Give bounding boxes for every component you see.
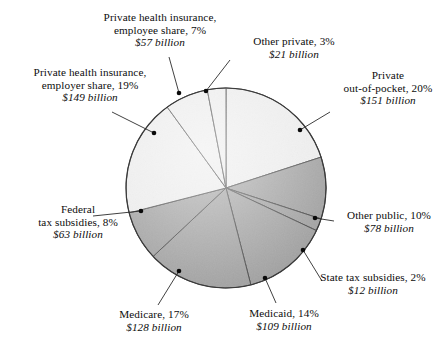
leader-private-oop [300,112,330,130]
dot-private-oop [298,128,303,133]
label-amount: $12 billion [300,284,446,297]
label-line-1: State tax subsidies, 2% [300,271,446,284]
dot-other-private [204,89,209,94]
label-medicaid: Medicaid, 14% $109 billion [226,307,342,332]
label-amount: $109 billion [226,320,342,333]
label-medicare: Medicare, 17% $128 billion [96,308,212,333]
dot-medicaid [263,276,268,281]
label-line-1: Medicare, 17% [96,308,212,321]
label-amount: $128 billion [96,321,212,334]
label-state-tax-subsidies: State tax subsidies, 2% $12 billion [300,271,446,296]
label-line-2: out-of-pocket, 20% [332,82,444,95]
dot-state-tax [301,248,306,253]
label-amount: $78 billion [334,222,444,235]
label-other-private: Other private, 3% $21 billion [232,35,356,60]
label-other-public: Other public, 10% $78 billion [334,209,444,234]
label-line-2: employer share, 19% [4,79,176,92]
label-amount: $149 billion [4,91,176,104]
leader-other-private [206,60,230,91]
label-line-1: Private health insurance, [4,66,176,79]
pie-chart-graphic [0,0,448,359]
dot-phi-employee [177,91,182,96]
label-line-1: Private [332,69,444,82]
label-line-2: tax subsidies, 8% [14,216,142,229]
label-amount: $151 billion [332,94,444,107]
label-amount: $21 billion [232,48,356,61]
label-line-1: Federal [14,203,142,216]
label-amount: $63 billion [14,228,142,241]
leader-medicare [158,271,179,305]
label-private-health-insurance-employer-share: Private health insurance, employer share… [4,66,176,104]
leader-medicaid [265,278,276,303]
label-line-1: Medicaid, 14% [226,307,342,320]
label-federal-tax-subsidies: Federal tax subsidies, 8% $63 billion [14,203,142,241]
label-line-1: Private health insurance, [77,11,243,24]
dot-medicare [177,269,182,274]
label-private-out-of-pocket: Private out-of-pocket, 20% $151 billion [332,69,444,107]
label-amount: $57 billion [77,36,243,49]
label-line-2: employee share, 7% [77,24,243,37]
chart-canvas: Private health insurance, employee share… [0,0,448,359]
label-line-1: Other public, 10% [334,209,444,222]
label-line-1: Other private, 3% [232,35,356,48]
label-private-health-insurance-employee-share: Private health insurance, employee share… [77,11,243,49]
leader-phi-employer [112,112,154,133]
dot-other-public [313,216,318,221]
dot-phi-employer [152,131,157,136]
pie-highlight [126,88,326,288]
